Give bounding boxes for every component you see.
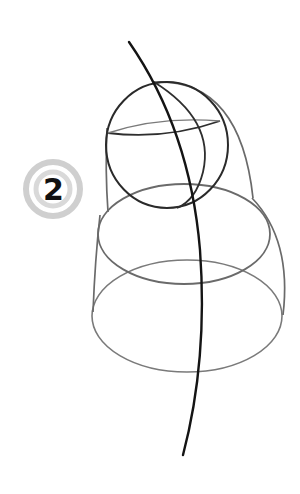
body-right-contour	[252, 198, 285, 315]
body-bottom-ellipse	[92, 260, 282, 372]
head-circle	[106, 82, 228, 208]
body-top-ellipse	[98, 184, 270, 284]
step-badge: 2	[22, 158, 84, 220]
step-number: 2	[22, 158, 84, 220]
sketch-drawing	[0, 0, 300, 494]
center-gesture-line	[129, 42, 202, 455]
sketch-canvas: 2 pencil sketch construction of a hooded…	[0, 0, 300, 494]
